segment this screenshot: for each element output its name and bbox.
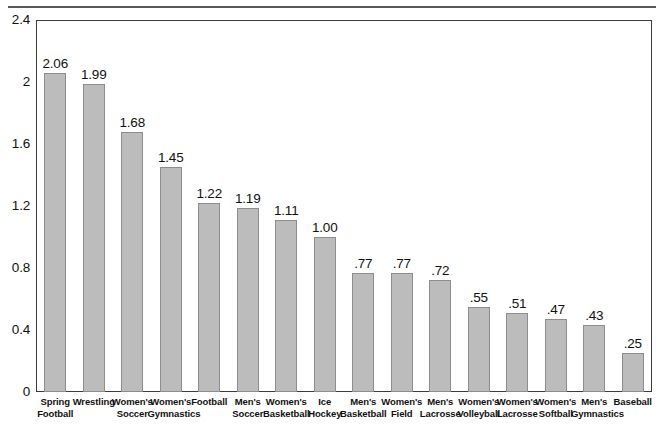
bar-slot: 1.22	[190, 20, 229, 392]
figure-container: 00.40.81.21.622.4 2.061.991.681.451.221.…	[0, 0, 664, 426]
bar[interactable]	[468, 307, 490, 392]
bar[interactable]	[275, 220, 297, 392]
bar-slot: .77	[344, 20, 383, 392]
bar[interactable]	[237, 208, 259, 392]
bar-slot: .77	[383, 20, 422, 392]
bar-value-label: 1.19	[235, 192, 260, 205]
bar[interactable]	[83, 84, 105, 392]
y-axis-tick-label: 0.8	[12, 261, 30, 274]
bar-slot: 1.68	[113, 20, 152, 392]
bar-value-label: .47	[547, 303, 565, 316]
bar-slot: .55	[460, 20, 499, 392]
bar-value-label: 1.68	[120, 116, 145, 129]
bar-slot: .25	[614, 20, 653, 392]
bar-value-label: 1.45	[158, 151, 183, 164]
bar-value-label: .77	[393, 257, 411, 270]
y-axis-tick-label: 1.6	[12, 137, 30, 150]
bar-value-label: 1.22	[197, 187, 222, 200]
bar[interactable]	[429, 280, 451, 392]
bar[interactable]	[583, 325, 605, 392]
y-axis-tick-label: 0.4	[12, 323, 30, 336]
bar-slot: .51	[498, 20, 537, 392]
bar[interactable]	[44, 73, 66, 392]
bar[interactable]	[198, 203, 220, 392]
x-axis-category-line: Football	[32, 408, 79, 420]
bar-value-label: .77	[354, 257, 372, 270]
y-axis-tick-label: 2.4	[12, 13, 30, 26]
bar-slot: 1.11	[267, 20, 306, 392]
bar-value-label: .72	[431, 264, 449, 277]
y-axis-tick-label: 1.2	[12, 199, 30, 212]
bar[interactable]	[121, 132, 143, 392]
bar-value-label: 1.00	[312, 221, 337, 234]
y-axis-tick-label: 0	[23, 385, 30, 398]
x-axis-category-line: Baseball	[610, 396, 657, 408]
bar[interactable]	[160, 167, 182, 392]
x-axis-category-labels: SpringFootballWrestlingWomen'sSoccerWome…	[36, 396, 652, 426]
x-axis-category-line: Gymnastics	[148, 408, 195, 420]
bar[interactable]	[314, 237, 336, 392]
y-axis: 00.40.81.21.622.4	[0, 14, 33, 400]
bar[interactable]	[622, 353, 644, 392]
top-horizontal-rule	[8, 6, 656, 8]
bar[interactable]	[352, 273, 374, 392]
bar-slot: .43	[575, 20, 614, 392]
bar-slot: 1.45	[152, 20, 191, 392]
bar-value-label: .25	[624, 337, 642, 350]
bar[interactable]	[545, 319, 567, 392]
bar[interactable]	[506, 313, 528, 392]
x-axis-category-label: Baseball	[610, 396, 657, 408]
bar-slot: 1.19	[229, 20, 268, 392]
y-axis-tick-label: 2	[23, 75, 30, 88]
bar-value-label: 1.11	[274, 204, 298, 217]
x-axis-category-line: Gymnastics	[571, 408, 618, 420]
bar-slot: 1.00	[306, 20, 345, 392]
bar-value-label: .51	[508, 297, 526, 310]
bar-slot: 2.06	[36, 20, 75, 392]
bar-value-label: 2.06	[43, 57, 68, 70]
bar-value-label: 1.99	[81, 68, 106, 81]
bar-value-label: .43	[585, 309, 603, 322]
bar-slot: .72	[421, 20, 460, 392]
bar-series: 2.061.991.681.451.221.191.111.00.77.77.7…	[36, 20, 652, 392]
bar-value-label: .55	[470, 291, 488, 304]
bar-slot: 1.99	[75, 20, 114, 392]
bar[interactable]	[391, 273, 413, 392]
bar-slot: .47	[537, 20, 576, 392]
